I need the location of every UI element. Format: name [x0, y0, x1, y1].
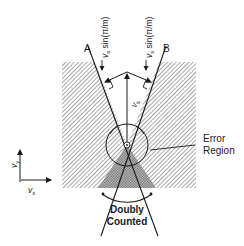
- error-region-label-line1: Error: [203, 133, 226, 144]
- error-region-label-line2: Region: [203, 145, 235, 156]
- svg-text:vy: vy: [9, 161, 20, 168]
- right-component-label: vs sin(π/m): [144, 16, 155, 58]
- arc-end-right: [150, 193, 153, 196]
- vy-axis-label: vy: [9, 161, 20, 168]
- origin-dot: [126, 144, 128, 146]
- doubly-counted-label-line1: Doubly: [110, 204, 144, 215]
- right-angle-marker-a: [106, 80, 113, 89]
- right-angle-marker-b: [143, 80, 150, 89]
- vs-label: vs: [128, 98, 141, 109]
- arc-end-left: [102, 193, 105, 196]
- angle-arc-lower: [102, 194, 152, 202]
- svg-text:vs sin(π/m): vs sin(π/m): [100, 16, 111, 58]
- svg-text:vs: vs: [128, 98, 141, 109]
- line-a-label: A: [84, 43, 91, 54]
- left-component-label: vs sin(π/m): [100, 16, 111, 58]
- svg-text:vs sin(π/m): vs sin(π/m): [144, 16, 155, 58]
- line-b-label: B: [163, 43, 170, 54]
- velocity-error-diagram: A B vs sin(π/m) vs sin(π/m) vs Error Reg…: [0, 0, 244, 246]
- vx-axis-label: vx: [28, 185, 35, 196]
- doubly-counted-label-line2: Counted: [107, 216, 148, 227]
